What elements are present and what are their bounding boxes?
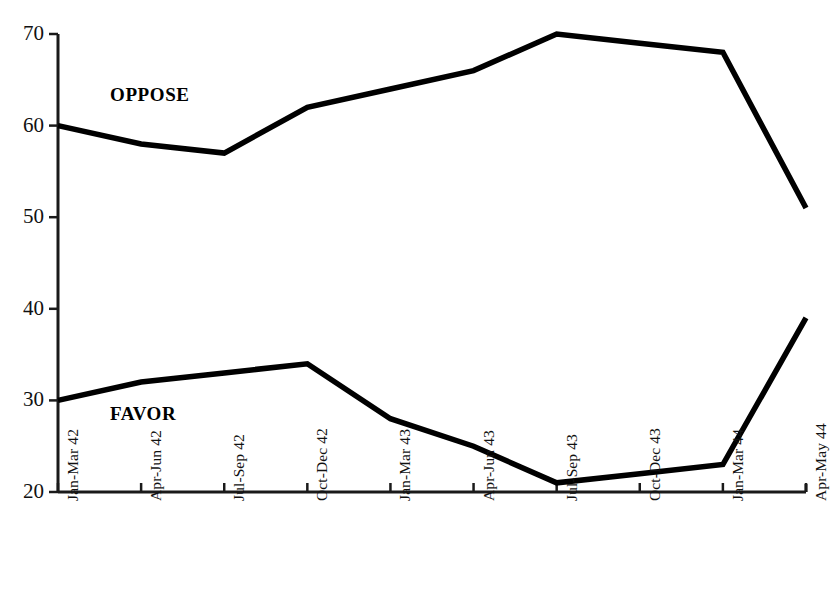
x-tick-label: Oct-Dec 42 (313, 428, 331, 501)
series-line-oppose (58, 34, 806, 208)
x-tick-label: Jan-Mar 44 (729, 429, 747, 501)
x-tick-label: Jan-Mar 43 (396, 429, 414, 501)
x-tick-label: Jan-Mar 42 (64, 429, 82, 501)
series-annotation-favor: FAVOR (110, 403, 176, 425)
x-tick-label: Apr-May 44 (812, 423, 830, 501)
y-tick-label: 40 (0, 298, 44, 319)
y-tick-label: 60 (0, 115, 44, 136)
y-tick-label: 50 (0, 206, 44, 227)
x-tick-label: Oct-Dec 43 (646, 428, 664, 501)
y-tick-label: 20 (0, 481, 44, 502)
y-tick-label: 30 (0, 389, 44, 410)
series-annotation-oppose: OPPOSE (110, 84, 190, 106)
x-tick-label: Jul-Sep 43 (563, 434, 581, 501)
y-tick-label: 70 (0, 23, 44, 44)
x-tick-label: Apr-Jun 42 (147, 430, 165, 501)
series-line-favor (58, 318, 806, 483)
x-tick-label: Apr-Jun 43 (480, 430, 498, 501)
x-tick-label: Jul-Sep 42 (230, 434, 248, 501)
